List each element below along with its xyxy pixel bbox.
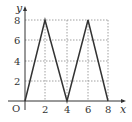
- data-series-line: [25, 20, 108, 101]
- x-axis-label: x: [120, 103, 127, 116]
- y-tick-6: 6: [14, 35, 20, 46]
- y-tick-8: 8: [14, 15, 20, 26]
- triangle-wave-chart: 8 6 4 2 2 4 6 8 O x y: [0, 0, 132, 122]
- y-tick-2: 2: [14, 76, 20, 87]
- y-tick-4: 4: [14, 56, 20, 67]
- y-axis-arrow-icon: [23, 6, 27, 11]
- y-axis-label: y: [15, 2, 23, 15]
- x-tick-6: 6: [85, 104, 91, 115]
- origin-label: O: [12, 103, 20, 114]
- grid-lines: [25, 20, 108, 101]
- x-tick-2: 2: [42, 104, 48, 115]
- x-tick-4: 4: [64, 104, 70, 115]
- x-tick-8: 8: [105, 104, 111, 115]
